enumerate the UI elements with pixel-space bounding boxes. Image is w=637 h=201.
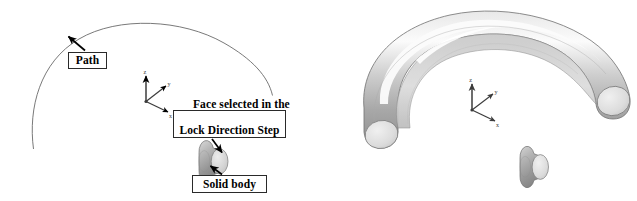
callout-face-selected: Face selected in the Lock Direction Step	[173, 110, 286, 138]
profile-cylinder-right	[520, 146, 549, 187]
profile-cylinder-right-end-face	[532, 155, 548, 180]
callout-path-label: Path	[76, 54, 99, 67]
callout-face-text: Face selected in the Lock Direction Step	[169, 85, 290, 162]
callout-path: Path	[68, 52, 107, 69]
triad-z-label-left: z	[143, 68, 146, 75]
coordinate-triad-right: z y x	[469, 76, 499, 129]
callout-solid-body: Solid body	[192, 175, 267, 193]
callout-face-line1: Face selected in the	[193, 98, 290, 110]
figure-root: z y x Path Face selected in the	[0, 0, 637, 201]
coordinate-triad-left: z y x	[143, 68, 172, 120]
right-panel-graphics: z y x	[320, 0, 637, 201]
callout-face-line2: Lock Direction Step	[169, 124, 290, 137]
triad-z-label-right: z	[469, 76, 472, 83]
triad-y-label-right: y	[495, 89, 498, 95]
left-panel: z y x Path Face selected in the	[0, 0, 320, 201]
right-panel: z y x	[320, 0, 637, 201]
swept-tube-solid	[362, 11, 633, 152]
triad-x-label-right: x	[496, 122, 499, 128]
arrow-to-path	[69, 37, 86, 51]
callout-solid-body-label: Solid body	[203, 178, 256, 191]
